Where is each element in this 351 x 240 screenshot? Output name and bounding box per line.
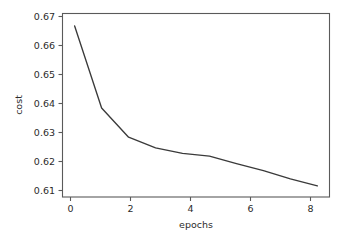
x-tick-label: 2 <box>127 203 133 214</box>
x-axis-title: epochs <box>179 219 213 230</box>
x-tick-label: 4 <box>187 203 193 214</box>
x-tick-label: 6 <box>247 203 253 214</box>
x-tick-label: 8 <box>307 203 313 214</box>
y-tick-label: 0.62 <box>34 156 55 167</box>
chart-figure: 0.67 0.66 0.65 0.64 0.63 0.62 0.61 0 2 4… <box>0 0 351 240</box>
line-chart: 0.67 0.66 0.65 0.64 0.63 0.62 0.61 0 2 4… <box>0 0 351 240</box>
y-tick-label: 0.63 <box>34 127 55 138</box>
figure-background <box>0 0 351 240</box>
y-tick-label: 0.67 <box>34 11 55 22</box>
x-tick-label: 0 <box>67 203 73 214</box>
y-tick-label: 0.61 <box>34 185 55 196</box>
y-tick-label: 0.66 <box>34 40 55 51</box>
y-axis-title: cost <box>13 95 24 115</box>
y-tick-label: 0.64 <box>34 98 55 109</box>
y-tick-label: 0.65 <box>34 69 55 80</box>
